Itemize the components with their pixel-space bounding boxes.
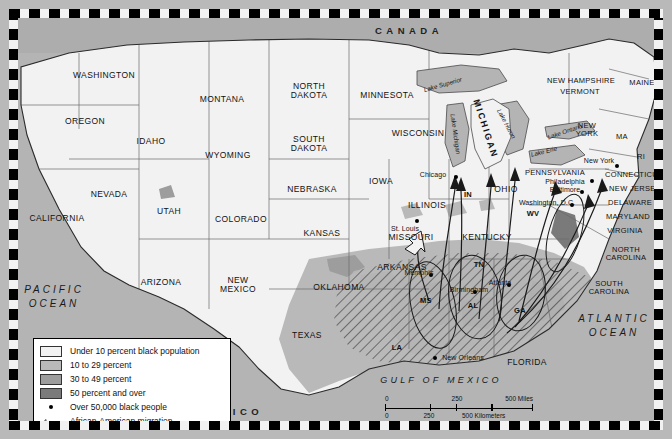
scale-km-labels: 0 250 500 Kilometers [385, 412, 533, 421]
scale-bar: 0 250 500 Miles 0 250 500 Kilometers [385, 395, 533, 421]
scale-mi-500: 500 Miles [505, 395, 533, 402]
map-legend: Under 10 percent black population 10 to … [33, 338, 231, 430]
legend-label-50-plus: 50 percent and over [70, 388, 146, 398]
scale-miles-labels: 0 250 500 Miles [385, 395, 533, 404]
scale-tick-c [491, 404, 492, 411]
city-dot-philadelphia [590, 179, 594, 183]
scale-tick-a [430, 404, 431, 411]
city-dot-washington-dc [570, 203, 574, 207]
scale-mi-0: 0 [385, 395, 389, 402]
legend-swatch-30-49 [40, 374, 62, 385]
legend-label-under-10: Under 10 percent black population [70, 346, 199, 356]
city-dot-chicago [454, 175, 458, 179]
city-dot-new-york [615, 164, 619, 168]
city-dot-memphis [429, 273, 433, 277]
city-dot-st-louis [415, 219, 419, 223]
legend-dot-icon [40, 405, 62, 409]
scale-tick-b [456, 404, 457, 411]
city-dot-atlanta [507, 283, 511, 287]
legend-swatch-50-plus [40, 388, 62, 399]
scale-km-0: 0 [385, 412, 389, 419]
scale-mi-250: 250 [452, 395, 463, 402]
scale-km-500: 500 Kilometers [462, 412, 505, 419]
legend-label-migration: African-American migration [70, 416, 173, 426]
scale-bar-line [385, 404, 533, 411]
legend-swatch-10-29 [40, 360, 62, 371]
migration-arrow-icon [40, 416, 62, 427]
legend-label-10-29: 10 to 29 percent [70, 360, 131, 370]
city-dot-new-orleans [433, 356, 437, 360]
legend-swatch-under-10 [40, 346, 62, 357]
city-dot-birmingham [473, 290, 477, 294]
map-canvas: CANADA MEXICO PACIFIC OCEAN ATLANTIC OCE… [9, 9, 663, 430]
legend-item-city-dot: Over 50,000 black people [40, 400, 223, 414]
legend-item-10-29: 10 to 29 percent [40, 358, 223, 372]
legend-item-under-10: Under 10 percent black population [40, 344, 223, 358]
map-figure: CANADA MEXICO PACIFIC OCEAN ATLANTIC OCE… [0, 0, 672, 439]
legend-item-30-49: 30 to 49 percent [40, 372, 223, 386]
legend-item-50-plus: 50 percent and over [40, 386, 223, 400]
legend-item-migration: African-American migration [40, 414, 223, 428]
scale-km-250: 250 [423, 412, 434, 419]
legend-label-30-49: 30 to 49 percent [70, 374, 131, 384]
city-dot-baltimore [580, 190, 584, 194]
legend-label-city-dot: Over 50,000 black people [70, 402, 167, 412]
